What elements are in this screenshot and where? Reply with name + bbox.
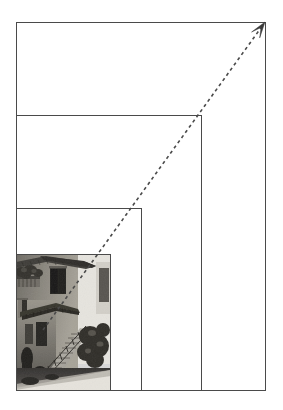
photograph-thumbnail — [15, 254, 111, 391]
arrow-head-icon — [252, 22, 265, 38]
scaling-diagram: Nested scaling frames with growth arrow … — [0, 0, 283, 410]
diagram-canvas — [0, 0, 283, 410]
